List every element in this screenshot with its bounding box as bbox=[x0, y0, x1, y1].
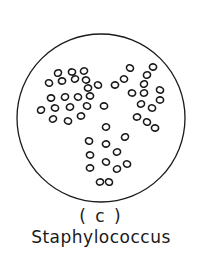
coccus-cell bbox=[120, 133, 129, 142]
coccus-cell bbox=[102, 123, 111, 131]
coccus-cell bbox=[45, 79, 54, 87]
microscope-field-circle bbox=[17, 34, 185, 202]
coccus-cell bbox=[151, 125, 159, 132]
coccus-cell bbox=[96, 178, 104, 185]
coccus-cell bbox=[113, 165, 122, 173]
coccus-cell bbox=[51, 104, 59, 111]
coccus-cell bbox=[83, 102, 92, 110]
coccus-cell bbox=[111, 82, 119, 89]
coccus-cell bbox=[85, 137, 94, 145]
coccus-cell bbox=[139, 80, 148, 89]
bacteria-cells bbox=[36, 64, 164, 187]
coccus-cell bbox=[140, 89, 148, 97]
coccus-cell bbox=[53, 69, 62, 78]
coccus-cell bbox=[125, 64, 134, 73]
coccus-cell bbox=[58, 78, 65, 84]
coccus-cell bbox=[136, 100, 145, 109]
coccus-cell bbox=[123, 160, 132, 168]
coccus-cell bbox=[149, 64, 157, 71]
coccus-cell bbox=[102, 141, 110, 148]
coccus-cell bbox=[128, 89, 136, 96]
coccus-cell bbox=[104, 178, 113, 187]
coccus-cell bbox=[156, 97, 163, 103]
coccus-cell bbox=[70, 75, 79, 84]
coccus-cell bbox=[120, 75, 129, 83]
coccus-cell bbox=[93, 81, 102, 90]
coccus-cell bbox=[74, 93, 83, 101]
coccus-cell bbox=[86, 151, 94, 158]
figure-caption: Staphylococcus bbox=[0, 227, 202, 247]
coccus-cell bbox=[86, 93, 94, 100]
coccus-cell bbox=[148, 104, 156, 112]
coccus-cell bbox=[143, 71, 152, 79]
coccus-cell bbox=[77, 112, 85, 119]
coccus-cell bbox=[80, 67, 89, 75]
coccus-cell bbox=[142, 118, 151, 127]
coccus-cell bbox=[66, 103, 75, 111]
coccus-cell bbox=[84, 84, 92, 91]
coccus-cell bbox=[68, 68, 76, 75]
coccus-cell bbox=[101, 158, 110, 167]
coccus-cell bbox=[100, 103, 107, 109]
coccus-cell bbox=[155, 86, 164, 95]
coccus-cell bbox=[133, 113, 141, 120]
coccus-cell bbox=[36, 106, 45, 115]
coccus-cell bbox=[48, 115, 57, 124]
coccus-cell bbox=[64, 117, 72, 125]
coccus-cell bbox=[61, 93, 70, 101]
coccus-cell bbox=[86, 165, 93, 171]
panel-label: ( c ) bbox=[0, 206, 202, 226]
coccus-cell bbox=[82, 76, 90, 84]
coccus-cell bbox=[113, 148, 121, 156]
coccus-cell bbox=[47, 95, 55, 102]
